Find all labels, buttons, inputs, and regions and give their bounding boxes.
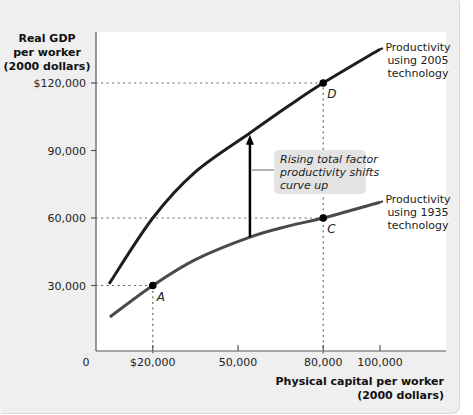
point-label-c: C: [327, 222, 336, 236]
annotation-text-line-1: Rising total factor: [280, 153, 379, 166]
annotation-text-line-2: productivity shifts: [279, 166, 379, 179]
y-axis-title-line-3: (2000 dollars): [4, 60, 91, 73]
curve-label-leader: [380, 48, 383, 49]
y-axis-ticks: 30,00060,00090,000$120,000: [34, 77, 97, 293]
annotation-text-line-3: curve up: [280, 179, 328, 192]
x-axis-title-line-1: Physical capital per worker: [276, 375, 445, 388]
point-label-d: D: [327, 87, 336, 101]
x-tick-label: 50,000: [219, 356, 258, 369]
curve-label-2005-line-1: Productivity: [385, 41, 451, 54]
curve-label-1935-line-1: Productivity: [385, 193, 451, 206]
curve-label-2005: Productivity using 2005 technology: [385, 41, 451, 80]
curve-label-leader: [380, 201, 383, 202]
chart: 30,00060,00090,000$120,000 $20,00050,000…: [0, 0, 473, 415]
curve-label-1935: Productivity using 1935 technology: [385, 193, 451, 232]
curve-label-2005-line-3: technology: [387, 67, 449, 80]
curve-label-1935-line-2: using 1935: [387, 206, 448, 219]
y-axis-title-line-2: per worker: [13, 46, 81, 59]
x-tick-label: 100,000: [357, 356, 403, 369]
origin-label: 0: [83, 356, 90, 369]
curve-label-2005-line-2: using 2005: [387, 54, 448, 67]
point-label-a: A: [156, 290, 165, 304]
x-tick-label: 80,000: [304, 356, 343, 369]
point-c: [319, 214, 327, 222]
x-tick-label: $20,000: [130, 356, 176, 369]
y-tick-label: 90,000: [48, 145, 87, 158]
y-axis-title-line-1: Real GDP: [18, 32, 75, 45]
curve-label-1935-line-3: technology: [387, 219, 449, 232]
y-tick-label: 30,000: [48, 280, 87, 293]
point-a: [149, 282, 157, 290]
y-tick-label: $120,000: [34, 77, 87, 90]
y-tick-label: 60,000: [48, 212, 87, 225]
point-d: [319, 79, 327, 87]
x-axis-title-line-2: (2000 dollars): [357, 389, 444, 402]
